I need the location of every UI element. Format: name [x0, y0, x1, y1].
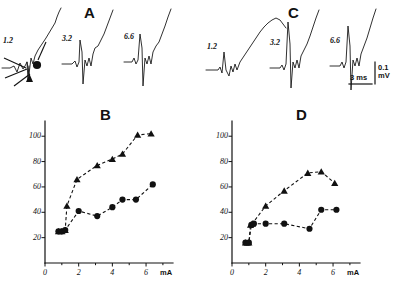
data-point-circle — [333, 207, 339, 213]
data-point-circle — [109, 204, 115, 210]
data-point-circle — [246, 240, 252, 246]
chart-d — [229, 121, 361, 267]
x-tick-label: 2 — [71, 268, 87, 277]
x-tick-label: 0 — [224, 268, 240, 277]
x-tick-label: 4 — [291, 268, 307, 277]
data-point-circle — [94, 213, 100, 219]
x-tick-label: 4 — [104, 268, 120, 277]
data-point-circle — [76, 208, 82, 214]
x-tick-label: 0 — [37, 268, 53, 277]
x-axis-unit-label: mA — [347, 268, 359, 277]
data-point-triangle — [94, 162, 101, 168]
y-tick-label: 60 — [19, 182, 41, 191]
figure-root: A C B D 1.2 3.2 6.6 1.2 3.2 6.6 0.1 mV 3… — [0, 0, 399, 285]
data-point-triangle — [331, 180, 338, 186]
charts-svg — [0, 0, 399, 285]
data-point-circle — [119, 197, 125, 203]
data-point-circle — [318, 207, 324, 213]
x-tick-label: 2 — [258, 268, 274, 277]
data-point-triangle — [119, 151, 126, 157]
data-point-circle — [133, 197, 139, 203]
y-tick-label: 20 — [19, 233, 41, 242]
data-point-circle — [150, 181, 156, 187]
y-tick-label: 40 — [206, 207, 228, 216]
y-tick-label: 40 — [19, 207, 41, 216]
data-point-circle — [263, 221, 269, 227]
y-tick-label: 80 — [206, 157, 228, 166]
data-point-triangle — [73, 176, 80, 182]
y-tick-label: 20 — [206, 233, 228, 242]
data-point-circle — [251, 221, 257, 227]
data-point-circle — [62, 227, 68, 233]
x-tick-label: 6 — [138, 268, 154, 277]
data-point-triangle — [109, 156, 116, 162]
x-axis-unit-label: mA — [160, 268, 172, 277]
y-tick-label: 60 — [206, 182, 228, 191]
data-point-triangle — [318, 168, 325, 174]
chart-b — [42, 121, 174, 267]
data-point-triangle — [63, 203, 70, 209]
x-tick-label: 6 — [325, 268, 341, 277]
y-tick-label: 100 — [206, 131, 228, 140]
y-tick-label: 100 — [19, 131, 41, 140]
data-point-triangle — [134, 132, 141, 138]
y-tick-label: 80 — [19, 157, 41, 166]
data-point-circle — [306, 226, 312, 232]
data-point-circle — [281, 221, 287, 227]
series-line-triangle — [58, 134, 151, 232]
data-point-triangle — [262, 203, 269, 209]
